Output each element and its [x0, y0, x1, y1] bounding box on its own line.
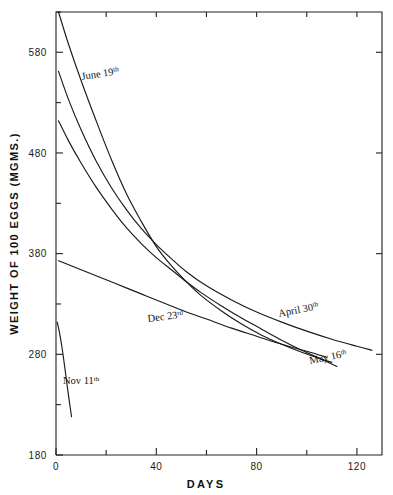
chart-canvas: 18028038048058004080120 June 19thDec 23r… — [0, 0, 393, 495]
figure-container: 18028038048058004080120 June 19thDec 23r… — [0, 0, 393, 495]
x-axis-tick-label: 40 — [150, 461, 162, 472]
y-axis-title: WEIGHT OF 100 EGGS (MGMS.) — [8, 132, 20, 335]
series-label: Dec 23rd — [147, 308, 184, 324]
y-axis-tick-label: 180 — [29, 450, 48, 461]
x-axis-tick-label: 120 — [348, 461, 367, 472]
axes-group — [56, 12, 382, 455]
series-label: April 30th — [277, 300, 320, 319]
series-label-text: Nov 11 — [63, 375, 94, 386]
plot-frame — [56, 12, 382, 455]
series-curve — [59, 121, 337, 367]
series-label: May 16th — [308, 348, 348, 366]
series-label-text: April 30 — [277, 301, 314, 319]
series-label-text: Dec 23 — [147, 309, 178, 324]
series-curve — [57, 322, 71, 417]
y-axis-tick-label: 280 — [29, 349, 48, 360]
series-label-text: May 16 — [308, 349, 342, 366]
series-label-ordinal: th — [340, 348, 347, 357]
x-axis-tick-label: 0 — [53, 461, 59, 472]
series-label-ordinal: th — [113, 65, 120, 74]
axis-titles-group: DAYSWEIGHT OF 100 EGGS (MGMS.) — [8, 132, 225, 490]
series-curve — [59, 71, 372, 350]
series-label-ordinal: th — [312, 300, 319, 309]
x-axis-title: DAYS — [187, 478, 225, 490]
series-label-text: June 19 — [81, 66, 115, 82]
y-axis-tick-label: 380 — [29, 248, 48, 259]
series-annotations-group: June 19thDec 23rdApril 30thMay 16thNov 1… — [63, 65, 348, 386]
y-axis-tick-label: 480 — [29, 148, 48, 159]
y-axis-tick-label: 580 — [29, 47, 48, 58]
tick-labels-group: 18028038048058004080120 — [29, 47, 367, 472]
x-axis-tick-label: 80 — [250, 461, 262, 472]
series-label-ordinal: rd — [177, 308, 184, 317]
series-label-ordinal: th — [94, 375, 100, 383]
series-label: June 19th — [81, 65, 121, 82]
series-label: Nov 11th — [63, 375, 100, 386]
